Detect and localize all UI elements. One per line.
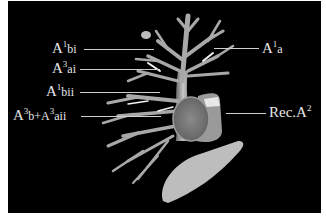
leader-line-a3b xyxy=(81,116,161,117)
leader-line-a1bi xyxy=(84,49,154,50)
base-plate-shape xyxy=(162,141,243,203)
label-a1bii: A1bii xyxy=(46,84,74,100)
leader-line-a1bii xyxy=(80,92,160,93)
leader-line-a1a xyxy=(214,48,259,49)
label-reca2: Rec.A2 xyxy=(269,105,311,120)
vessel-cross-section xyxy=(173,97,209,141)
leader-line-reca2 xyxy=(226,113,266,114)
nodule-shape xyxy=(141,31,151,39)
label-a3ai: A3ai xyxy=(52,61,76,77)
leader-line-a3ai xyxy=(80,69,160,70)
label-a3b-a3aii: A3b+A3aii xyxy=(13,108,66,124)
figure-panel: A1bi A3ai A1bii A3b+A3aii A1a Rec.A2 xyxy=(8,1,321,213)
label-a1bi: A1bi xyxy=(52,41,77,57)
label-a1a: A1a xyxy=(262,41,283,57)
